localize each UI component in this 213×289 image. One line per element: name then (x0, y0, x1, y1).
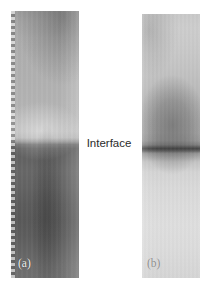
panel-b-left-edge-highlight (142, 14, 200, 278)
micrograph-panel-b: (b) (142, 14, 200, 278)
interface-annotation-label: Interface (81, 137, 137, 150)
figure-root: (a) Interface (b) (0, 0, 213, 289)
panel-a-right-edge-highlight (11, 11, 79, 278)
micrograph-panel-a: (a) (11, 11, 79, 278)
panel-a-caption: (a) (18, 258, 31, 270)
panel-b-caption: (b) (147, 258, 160, 270)
panel-a-dashed-left-edge (11, 11, 15, 278)
